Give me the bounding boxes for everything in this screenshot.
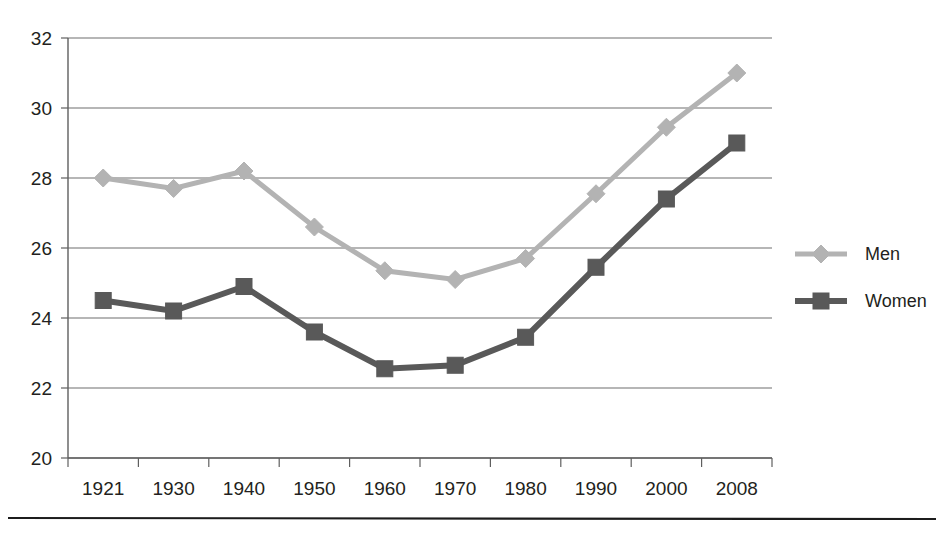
x-axis-tick-label: 1940 <box>223 478 265 499</box>
legend-label: Men <box>865 244 900 264</box>
data-point-marker <box>518 329 534 345</box>
data-point-marker <box>377 361 393 377</box>
y-axis-tick-label: 32 <box>31 28 52 49</box>
data-point-marker <box>588 259 604 275</box>
data-point-marker <box>306 324 322 340</box>
x-axis-tick-label: 1950 <box>293 478 335 499</box>
data-point-marker <box>729 135 745 151</box>
y-tick-labels-group: 20222426283032 <box>31 28 53 469</box>
line-chart: 20222426283032 1921193019401950196019701… <box>0 0 942 539</box>
data-point-marker <box>447 357 463 373</box>
x-axis-tick-label: 1970 <box>434 478 476 499</box>
series-women <box>95 135 745 377</box>
legend-marker-diamond-icon <box>812 245 830 263</box>
y-axis-tick-label: 20 <box>31 448 52 469</box>
legend-item-women[interactable]: Women <box>795 291 927 311</box>
chart-figure: 20222426283032 1921193019401950196019701… <box>0 0 942 539</box>
y-axis-tick-label: 28 <box>31 168 52 189</box>
y-axis-tick-label: 26 <box>31 238 52 259</box>
x-axis-tick-label: 1960 <box>364 478 406 499</box>
legend: MenWomen <box>795 244 927 311</box>
gridlines-group <box>68 38 772 458</box>
series-men <box>94 64 746 289</box>
x-axis-tick-label: 1980 <box>504 478 546 499</box>
data-point-marker <box>446 271 464 289</box>
data-point-marker <box>236 279 252 295</box>
data-point-marker <box>165 180 183 198</box>
data-point-marker <box>658 191 674 207</box>
x-axis-tick-label: 2000 <box>645 478 687 499</box>
legend-label: Women <box>865 291 927 311</box>
x-tick-labels-group: 1921193019401950196019701980199020002008 <box>82 478 758 499</box>
y-tickmarks-group <box>61 38 68 458</box>
x-axis-tick-label: 1921 <box>82 478 124 499</box>
y-axis-tick-label: 22 <box>31 378 52 399</box>
legend-marker-square-icon <box>813 293 829 309</box>
x-axis-tick-label: 1930 <box>152 478 194 499</box>
legend-item-men[interactable]: Men <box>795 244 900 264</box>
y-axis-tick-label: 24 <box>31 308 53 329</box>
series-group <box>94 64 746 377</box>
x-tickmarks-group <box>68 458 772 467</box>
y-axis-tick-label: 30 <box>31 98 52 119</box>
data-point-marker <box>94 169 112 187</box>
series-line-women <box>103 143 737 369</box>
data-point-marker <box>95 293 111 309</box>
data-point-marker <box>166 303 182 319</box>
x-axis-tick-label: 1990 <box>575 478 617 499</box>
footer-rule <box>8 518 936 519</box>
x-axis-tick-label: 2008 <box>716 478 758 499</box>
